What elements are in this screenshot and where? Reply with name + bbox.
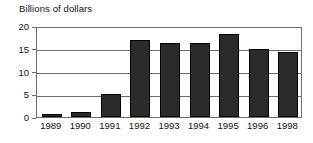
plot-area bbox=[36, 27, 302, 118]
bar bbox=[278, 52, 298, 117]
bar bbox=[219, 34, 239, 117]
y-tick-label: 0 bbox=[24, 113, 29, 123]
x-tick-label: 1995 bbox=[218, 120, 239, 132]
bar bbox=[71, 112, 91, 117]
x-tick-label: 1993 bbox=[158, 120, 179, 132]
x-tick-label: 1989 bbox=[40, 120, 61, 132]
x-axis: 198919901991199219931994199519961998 bbox=[36, 120, 302, 136]
y-tick-label: 5 bbox=[24, 90, 29, 100]
bar bbox=[190, 43, 210, 117]
bar bbox=[101, 94, 121, 117]
x-tick-label: 1991 bbox=[99, 120, 120, 132]
bar-chart-figure: Billions of dollars 05101520 19891990199… bbox=[0, 0, 313, 143]
bar bbox=[160, 43, 180, 117]
x-tick-label: 1990 bbox=[70, 120, 91, 132]
x-tick-label: 1992 bbox=[129, 120, 150, 132]
chart-title: Billions of dollars bbox=[19, 3, 92, 14]
y-tick-label: 20 bbox=[18, 22, 29, 32]
x-tick-label: 1994 bbox=[188, 120, 209, 132]
y-tick-label: 15 bbox=[18, 45, 29, 55]
bar bbox=[42, 114, 62, 117]
y-axis: 05101520 bbox=[0, 27, 33, 118]
y-tick-label: 10 bbox=[18, 68, 29, 78]
x-tick-label: 1998 bbox=[277, 120, 298, 132]
x-tick-label: 1996 bbox=[247, 120, 268, 132]
bar bbox=[130, 40, 150, 117]
bar bbox=[249, 49, 269, 117]
